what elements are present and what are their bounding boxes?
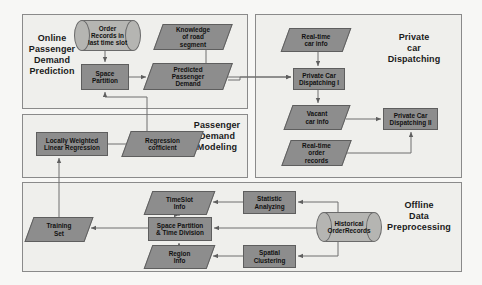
node-label: Regression cofficient [126, 131, 199, 157]
node-predicted-demand[interactable]: Predicted Passenger Demand [148, 63, 228, 90]
node-label: Private Car Dispatching II [390, 112, 432, 126]
node-spatial-clustering[interactable]: Spatial Clustering [243, 245, 296, 268]
node-private-car-dispatching-2[interactable]: Private Car Dispatching II [383, 108, 438, 130]
node-knowledge-road[interactable]: Knowledge of road segment [158, 24, 228, 50]
node-region-info[interactable]: Region Info [148, 245, 211, 269]
node-label: Private Car Dispatching I [299, 72, 339, 86]
node-label: Historical OrderRecords [316, 212, 382, 242]
node-label: Training Set [29, 217, 89, 242]
node-label: Locally Weighted Linear Regression [44, 137, 100, 151]
node-space-partition[interactable]: Space Partition [81, 64, 129, 90]
node-regression-coefficient[interactable]: Regression cofficient [126, 131, 199, 157]
node-label: Real-time order records [286, 140, 347, 166]
node-space-partition-time-division[interactable]: Space Partition & Time Division [148, 217, 212, 241]
node-training-set[interactable]: Training Set [29, 217, 89, 242]
panel-title-offline-data-preprocessing: Offline Data Preprocessing [378, 200, 460, 233]
node-private-car-dispatching-1[interactable]: Private Car Dispatching I [293, 68, 345, 90]
node-label: Vacant car info [288, 105, 346, 130]
node-label: TimeSlot Info [148, 191, 211, 215]
node-label: Real-time car info [285, 28, 347, 52]
node-timeslot-info[interactable]: TimeSlot Info [148, 191, 211, 215]
node-realtime-order-records[interactable]: Real-time order records [286, 140, 347, 166]
node-label: Predicted Passenger Demand [148, 63, 228, 90]
node-order-records[interactable]: Order Records in last time slot [74, 20, 141, 51]
node-historical-order-records[interactable]: Historical OrderRecords [316, 212, 382, 242]
node-statistic-analyzing[interactable]: Statistic Analyzing [243, 191, 296, 214]
node-label: Space Partition & Time Division [156, 222, 204, 236]
panel-title-private-car-dispatching: Private car Dispatching [370, 32, 458, 65]
node-label: Order Records in last time slot [74, 20, 141, 51]
node-locally-weighted-linear-regression[interactable]: Locally Weighted Linear Regression [36, 132, 108, 156]
node-realtime-car-info[interactable]: Real-time car info [285, 28, 347, 52]
panel-title-online-passenger-demand-prediction: Online Passenger Demand Prediction [22, 33, 82, 77]
node-label: Knowledge of road segment [158, 24, 228, 50]
node-vacant-car-info[interactable]: Vacant car info [288, 105, 346, 130]
node-label: Spatial Clustering [254, 249, 286, 263]
node-label: Region Info [148, 245, 211, 269]
architecture-diagram: Online Passenger Demand Prediction Passe… [0, 0, 482, 285]
node-label: Space Partition [92, 70, 118, 84]
node-label: Statistic Analyzing [254, 195, 284, 209]
